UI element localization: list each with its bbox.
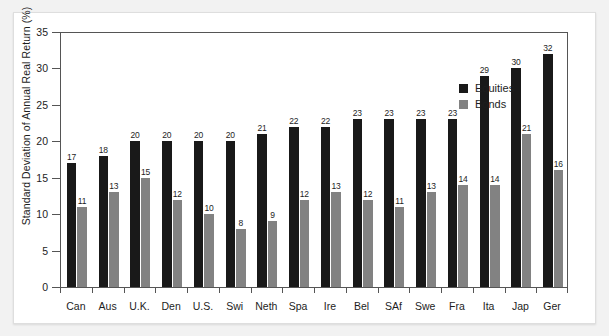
bar-equities-can — [67, 163, 77, 287]
legend-swatch-bonds-icon — [459, 100, 468, 109]
bar-value-label: 15 — [141, 167, 150, 177]
bar-bonds-jap — [522, 134, 532, 287]
x-axis-tick — [124, 288, 125, 293]
x-axis-label-jap: Jap — [512, 300, 529, 312]
x-axis-tick — [187, 288, 188, 293]
bar-bonds-spa — [300, 200, 310, 287]
y-axis-tick-label: 25 — [26, 99, 48, 111]
bar-value-label: 20 — [130, 130, 139, 140]
x-axis-tick — [505, 288, 506, 293]
x-axis-tick — [314, 288, 315, 293]
x-axis-tick — [441, 288, 442, 293]
bar-bonds-us — [204, 214, 214, 287]
bar-value-label: 20 — [226, 130, 235, 140]
bar-value-label: 11 — [395, 196, 404, 206]
bar-bonds-ita — [490, 185, 500, 287]
x-axis-tick — [567, 288, 568, 293]
legend-label-bonds: Bonds — [475, 98, 506, 110]
x-axis-label-aus: Aus — [99, 300, 117, 312]
y-axis-tick-label: 10 — [26, 208, 48, 220]
y-axis-tick — [52, 68, 60, 69]
bar-value-label: 22 — [289, 116, 298, 126]
bar-value-label: 32 — [543, 43, 552, 53]
bar-value-label: 11 — [78, 196, 87, 206]
bar-equities-saf — [384, 119, 394, 287]
y-axis-tick — [52, 251, 60, 252]
y-axis-tick-label: 5 — [26, 245, 48, 257]
bar-equities-us — [194, 141, 204, 287]
x-axis-tick — [346, 288, 347, 293]
x-axis-label-saf: SAf — [385, 300, 402, 312]
bar-equities-spa — [289, 127, 299, 287]
x-axis-tick — [155, 288, 156, 293]
x-axis-tick — [60, 288, 61, 293]
bar-equities-uk — [130, 141, 140, 287]
bar-value-label: 16 — [554, 159, 563, 169]
bar-equities-neth — [257, 134, 267, 287]
bar-value-label: 17 — [67, 152, 76, 162]
x-axis-label-swe: Swe — [415, 300, 435, 312]
y-axis-tick — [52, 32, 60, 33]
x-axis-label-can: Can — [66, 300, 85, 312]
y-axis-tick-label: 35 — [26, 26, 48, 38]
y-axis-tick — [52, 105, 60, 106]
bar-equities-fra — [448, 119, 458, 287]
x-axis-tick — [251, 288, 252, 293]
bar-value-label: 23 — [353, 108, 362, 118]
bar-value-label: 12 — [173, 189, 182, 199]
bar-value-label: 21 — [257, 123, 266, 133]
x-axis-label-us: U.S. — [193, 300, 213, 312]
legend-item-equities: Equities — [459, 80, 514, 96]
bar-bonds-den — [173, 200, 183, 287]
x-axis-label-neth: Neth — [255, 300, 277, 312]
legend-label-equities: Equities — [475, 82, 514, 94]
bar-bonds-neth — [268, 221, 278, 287]
bar-value-label: 20 — [194, 130, 203, 140]
bar-value-label: 30 — [511, 57, 520, 67]
y-axis-tick-label: 30 — [26, 62, 48, 74]
bar-equities-aus — [99, 156, 109, 287]
bar-bonds-ire — [331, 192, 341, 287]
x-axis-label-ire: Ire — [324, 300, 336, 312]
x-axis-tick — [282, 288, 283, 293]
bar-equities-ire — [321, 127, 331, 287]
x-axis-tick — [219, 288, 220, 293]
bar-bonds-swe — [427, 192, 437, 287]
bar-bonds-bel — [363, 200, 373, 287]
bar-value-label: 20 — [162, 130, 171, 140]
bar-value-label: 13 — [331, 181, 340, 191]
x-axis-label-bel: Bel — [354, 300, 369, 312]
x-axis-label-swi: Swi — [226, 300, 243, 312]
bar-value-label: 12 — [363, 189, 372, 199]
bar-value-label: 22 — [321, 116, 330, 126]
x-axis-tick — [378, 288, 379, 293]
bar-bonds-uk — [141, 178, 151, 287]
legend-swatch-equities-icon — [459, 84, 468, 93]
bar-value-label: 29 — [480, 65, 489, 75]
y-axis-tick-label: 15 — [26, 172, 48, 184]
bar-equities-swe — [416, 119, 426, 287]
bar-value-label: 21 — [522, 123, 531, 133]
bar-value-label: 23 — [384, 108, 393, 118]
bar-value-label: 14 — [490, 174, 499, 184]
chart-legend: Equities Bonds — [459, 80, 514, 112]
y-axis-tick — [52, 178, 60, 179]
x-axis-tick — [92, 288, 93, 293]
bar-bonds-ger — [554, 170, 564, 287]
bar-value-label: 18 — [99, 145, 108, 155]
bar-equities-swi — [226, 141, 236, 287]
bar-value-label: 23 — [448, 108, 457, 118]
bar-value-label: 8 — [239, 218, 244, 228]
bar-equities-bel — [353, 119, 363, 287]
x-axis-label-ita: Ita — [483, 300, 495, 312]
bar-bonds-saf — [395, 207, 405, 287]
plot-area: 1711181320152012201020821922122213231223… — [60, 32, 568, 288]
bar-bonds-aus — [109, 192, 119, 287]
y-axis-tick — [52, 287, 60, 288]
bar-bonds-swi — [236, 229, 246, 287]
x-axis-tick — [409, 288, 410, 293]
x-axis-label-spa: Spa — [289, 300, 308, 312]
x-axis-tick — [473, 288, 474, 293]
bar-chart-figure: Standard Deviation of Annual Real Return… — [0, 0, 609, 336]
bar-value-label: 12 — [300, 189, 309, 199]
